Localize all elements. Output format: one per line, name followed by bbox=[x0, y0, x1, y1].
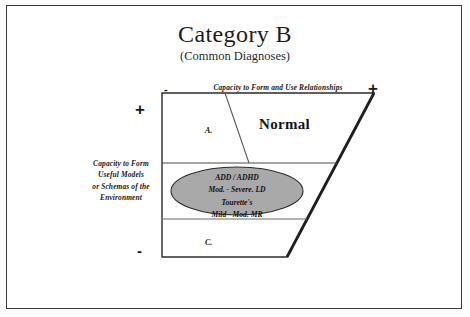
region-a-label: A. bbox=[205, 126, 212, 135]
normal-region-label: Normal bbox=[259, 116, 310, 133]
diagnosis-line-4: Mild - Mod. MR bbox=[177, 209, 297, 221]
diagnosis-line-3: Tourette's bbox=[177, 197, 297, 209]
diagnosis-line-2: Mod. - Severe. LD bbox=[177, 184, 297, 196]
diagnoses-ellipse-text: ADD / ADHD Mod. - Severe. LD Tourette's … bbox=[177, 172, 297, 221]
diagnosis-line-1: ADD / ADHD bbox=[177, 172, 297, 184]
region-c-label: C. bbox=[205, 238, 212, 247]
diagram-figure bbox=[0, 0, 470, 317]
diagram-page: Category B (Common Diagnoses) Capacity t… bbox=[0, 0, 470, 317]
